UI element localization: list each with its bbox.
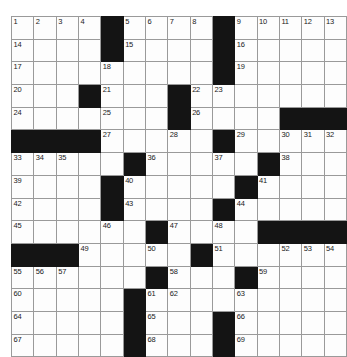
crossword-cell[interactable] [279,198,301,221]
crossword-cell[interactable]: 46 [101,221,123,244]
crossword-cell[interactable]: 55 [12,266,34,289]
crossword-cell[interactable]: 69 [235,334,257,357]
crossword-cell[interactable] [56,198,78,221]
crossword-cell[interactable] [324,198,346,221]
crossword-cell[interactable]: 54 [324,243,346,266]
crossword-cell[interactable]: 30 [279,130,301,153]
crossword-cell[interactable]: 27 [101,130,123,153]
crossword-cell[interactable] [190,311,212,334]
crossword-cell[interactable] [235,107,257,130]
crossword-cell[interactable] [123,85,145,108]
crossword-cell[interactable] [168,175,190,198]
crossword-cell[interactable] [302,175,324,198]
crossword-cell[interactable]: 41 [257,175,279,198]
crossword-cell[interactable]: 16 [235,39,257,62]
crossword-cell[interactable]: 33 [12,153,34,176]
crossword-cell[interactable] [324,62,346,85]
crossword-cell[interactable]: 45 [12,221,34,244]
crossword-cell[interactable] [302,311,324,334]
crossword-cell[interactable] [101,243,123,266]
crossword-cell[interactable] [56,85,78,108]
crossword-cell[interactable] [190,175,212,198]
crossword-cell[interactable]: 18 [101,62,123,85]
crossword-cell[interactable] [302,289,324,312]
crossword-cell[interactable]: 19 [235,62,257,85]
crossword-cell[interactable] [302,85,324,108]
crossword-cell[interactable] [168,311,190,334]
crossword-cell[interactable]: 14 [12,39,34,62]
crossword-cell[interactable] [145,62,167,85]
crossword-cell[interactable] [212,175,234,198]
crossword-cell[interactable] [324,311,346,334]
crossword-cell[interactable] [212,266,234,289]
crossword-cell[interactable] [190,266,212,289]
crossword-cell[interactable] [279,62,301,85]
crossword-cell[interactable] [324,153,346,176]
crossword-cell[interactable] [78,175,100,198]
crossword-cell[interactable]: 10 [257,17,279,40]
crossword-cell[interactable] [78,334,100,357]
crossword-cell[interactable]: 58 [168,266,190,289]
crossword-cell[interactable] [279,175,301,198]
crossword-cell[interactable] [101,266,123,289]
crossword-cell[interactable]: 40 [123,175,145,198]
crossword-cell[interactable] [302,266,324,289]
crossword-cell[interactable] [190,130,212,153]
crossword-cell[interactable] [279,39,301,62]
crossword-cell[interactable]: 20 [12,85,34,108]
crossword-cell[interactable]: 35 [56,153,78,176]
crossword-cell[interactable]: 60 [12,289,34,312]
crossword-cell[interactable] [168,62,190,85]
crossword-cell[interactable] [212,289,234,312]
crossword-cell[interactable] [56,175,78,198]
crossword-cell[interactable]: 51 [212,243,234,266]
crossword-cell[interactable] [78,62,100,85]
crossword-cell[interactable] [123,130,145,153]
crossword-cell[interactable] [56,39,78,62]
crossword-cell[interactable]: 1 [12,17,34,40]
crossword-cell[interactable] [123,266,145,289]
crossword-cell[interactable]: 28 [168,130,190,153]
crossword-cell[interactable] [190,198,212,221]
crossword-cell[interactable] [34,311,56,334]
crossword-cell[interactable]: 56 [34,266,56,289]
crossword-cell[interactable]: 11 [279,17,301,40]
crossword-cell[interactable] [302,153,324,176]
crossword-cell[interactable] [123,243,145,266]
crossword-cell[interactable]: 62 [168,289,190,312]
crossword-cell[interactable]: 52 [279,243,301,266]
crossword-cell[interactable] [34,175,56,198]
crossword-cell[interactable]: 15 [123,39,145,62]
crossword-cell[interactable] [324,289,346,312]
crossword-cell[interactable] [168,39,190,62]
crossword-cell[interactable] [257,243,279,266]
crossword-cell[interactable] [34,198,56,221]
crossword-cell[interactable] [302,62,324,85]
crossword-cell[interactable] [235,243,257,266]
crossword-cell[interactable]: 26 [190,107,212,130]
crossword-cell[interactable]: 32 [324,130,346,153]
crossword-cell[interactable] [257,107,279,130]
crossword-cell[interactable] [168,198,190,221]
crossword-cell[interactable] [34,62,56,85]
crossword-cell[interactable] [34,39,56,62]
crossword-cell[interactable] [123,221,145,244]
crossword-cell[interactable]: 24 [12,107,34,130]
crossword-cell[interactable] [56,107,78,130]
crossword-cell[interactable] [56,221,78,244]
crossword-cell[interactable] [56,334,78,357]
crossword-cell[interactable] [324,39,346,62]
crossword-cell[interactable] [168,153,190,176]
crossword-cell[interactable] [78,39,100,62]
crossword-cell[interactable] [212,107,234,130]
crossword-cell[interactable] [257,62,279,85]
crossword-cell[interactable] [78,311,100,334]
crossword-cell[interactable] [302,334,324,357]
crossword-cell[interactable]: 66 [235,311,257,334]
crossword-cell[interactable] [190,289,212,312]
crossword-cell[interactable] [78,289,100,312]
crossword-cell[interactable] [123,107,145,130]
crossword-cell[interactable] [324,266,346,289]
crossword-cell[interactable]: 5 [123,17,145,40]
crossword-cell[interactable] [190,39,212,62]
